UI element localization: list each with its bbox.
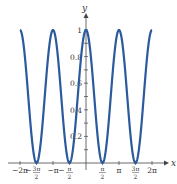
x-tick-label: π: [117, 166, 122, 175]
x-tick-label: 2π: [147, 166, 157, 175]
chart-svg: xy0.20.40.60.81−2π−3π2−π−π2π2π3π22π: [0, 0, 177, 184]
x-axis-label: x: [171, 158, 176, 168]
y-tick-label: 0.6: [70, 79, 82, 88]
chart: xy0.20.40.60.81−2π−3π2−π−π2π2π3π22π: [0, 0, 177, 184]
y-axis-arrow-icon: [84, 13, 89, 18]
x-tick-label-numerator: π: [68, 165, 72, 172]
x-tick-label-denominator: 2: [134, 173, 138, 180]
x-tick-label-denominator: 2: [101, 173, 105, 180]
x-tick-label-numerator: π: [101, 165, 105, 172]
x-tick-label-denominator: 2: [35, 173, 39, 180]
x-tick-label-numerator: 3π: [33, 165, 41, 172]
x-tick-label: −π: [47, 166, 58, 175]
x-tick-label-sign: −: [58, 166, 64, 175]
x-tick-label-denominator: 2: [68, 173, 72, 180]
y-tick-label: 1: [77, 26, 82, 35]
y-axis-label: y: [81, 3, 88, 13]
x-tick-label-sign: −: [25, 166, 31, 175]
x-tick-label-numerator: 3π: [132, 165, 140, 172]
y-tick-label: 0.2: [70, 132, 82, 141]
x-axis-arrow-icon: [164, 161, 169, 166]
